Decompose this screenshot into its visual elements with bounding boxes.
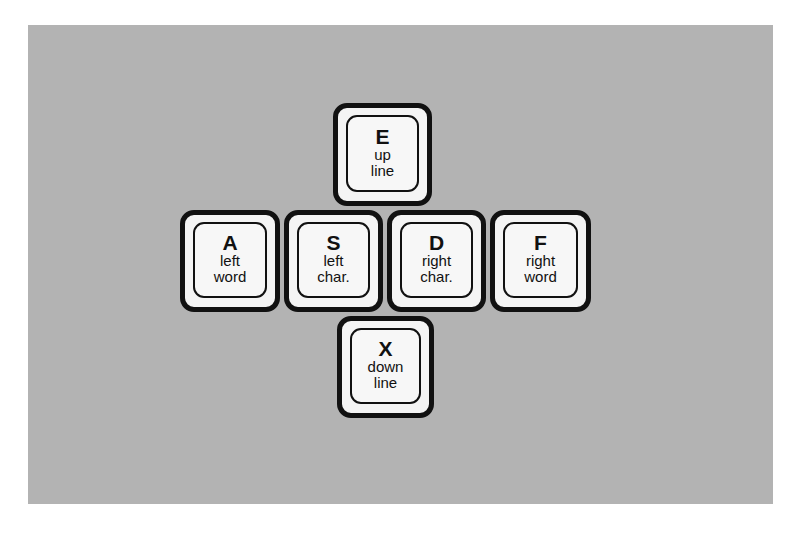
key-s-cap: S left char.: [297, 222, 370, 298]
key-f-cap: F right word: [503, 222, 578, 298]
key-e-cap: E up line: [346, 115, 419, 192]
key-x-label-line2: line: [374, 375, 397, 391]
key-d: D right char.: [387, 210, 486, 312]
key-e: E up line: [333, 103, 432, 206]
key-s-letter: S: [326, 233, 340, 253]
key-a-letter: A: [222, 233, 237, 253]
key-e-label-line2: line: [371, 163, 394, 179]
key-a: A left word: [180, 210, 280, 312]
key-s-label-line2: char.: [317, 269, 350, 285]
key-x: X down line: [337, 316, 434, 418]
key-x-label-line1: down: [368, 359, 404, 375]
key-e-label-line1: up: [374, 147, 391, 163]
key-x-cap: X down line: [350, 328, 421, 404]
key-e-letter: E: [375, 127, 389, 147]
key-a-label-line1: left: [220, 253, 240, 269]
key-s: S left char.: [284, 210, 383, 312]
key-f: F right word: [490, 210, 591, 312]
key-f-letter: F: [534, 233, 547, 253]
key-d-letter: D: [429, 233, 444, 253]
key-x-letter: X: [378, 339, 392, 359]
key-s-label-line1: left: [323, 253, 343, 269]
key-a-cap: A left word: [193, 222, 267, 298]
key-d-label-line2: char.: [420, 269, 453, 285]
key-f-label-line2: word: [524, 269, 557, 285]
key-f-label-line1: right: [526, 253, 555, 269]
key-a-label-line2: word: [214, 269, 247, 285]
key-d-cap: D right char.: [400, 222, 473, 298]
key-d-label-line1: right: [422, 253, 451, 269]
